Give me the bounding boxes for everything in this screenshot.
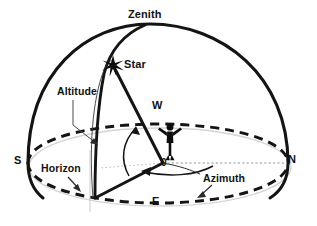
- label-origin: 0: [161, 158, 167, 168]
- label-zenith: Zenith: [128, 9, 162, 20]
- label-west: W: [152, 100, 162, 111]
- label-north: N: [288, 154, 296, 165]
- altitude-angle-arc: [124, 128, 136, 176]
- line-of-sight-origin-to-star: [114, 67, 163, 163]
- celestial-sphere-diagram: [0, 0, 317, 226]
- horizon-circle-back: [28, 124, 288, 163]
- azimuth-radius-origin-to-foot: [95, 163, 163, 198]
- label-east: E: [152, 196, 159, 207]
- observer-figure-icon: [158, 124, 182, 160]
- label-altitude: Altitude: [57, 86, 97, 97]
- label-south: S: [14, 155, 21, 166]
- horizon-leader-arrowhead: [73, 184, 81, 192]
- diagram-canvas: Zenith Star Altitude Horizon Azimuth N S…: [0, 0, 317, 226]
- label-horizon: Horizon: [41, 163, 81, 174]
- label-azimuth: Azimuth: [203, 173, 245, 184]
- altitude-angle-arrowhead: [131, 126, 140, 135]
- label-star: Star: [124, 59, 146, 70]
